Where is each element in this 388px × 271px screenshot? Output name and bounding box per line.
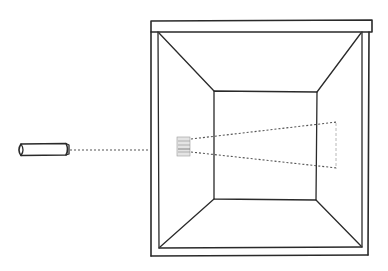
flashlight-icon xyxy=(19,144,69,156)
lower-light-ray xyxy=(191,152,337,168)
box-back-wall xyxy=(214,91,317,200)
flashlight-box-diagram xyxy=(0,0,388,271)
upper-light-ray xyxy=(191,122,337,139)
light-entry-patch xyxy=(177,137,190,156)
